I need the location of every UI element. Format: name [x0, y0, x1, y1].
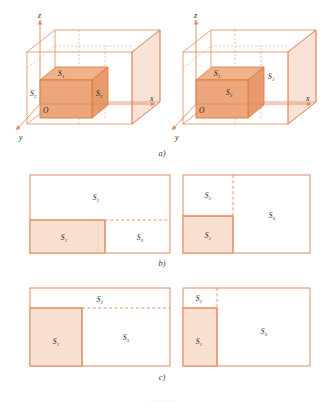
axis-label-z: z — [37, 11, 42, 20]
axis-label-y: y — [18, 133, 23, 142]
cell-label-s3: S₃ — [261, 327, 268, 336]
row-b-label: b) — [142, 258, 182, 268]
rect-diagram-b-right: S₂ S₁ S₃ — [183, 175, 310, 253]
row-c-svg: S₂ S₁ S₃ S₂ S₁ S₃ — [0, 282, 325, 374]
cell-label-s3: S₃ — [123, 333, 130, 342]
axis-label-y: y — [174, 133, 179, 142]
region-label-s2: S₂ — [268, 72, 275, 81]
cell-label-s1: S₁ — [205, 231, 212, 240]
region-label-s1: S₁ — [58, 69, 65, 78]
axis-label-x: x — [149, 94, 154, 103]
right-3d-box: z x y O S₁ S₂ S₃ — [172, 11, 316, 142]
cell-label-s1: S₁ — [196, 337, 203, 346]
outer-right-face — [132, 30, 160, 124]
cell-label-s2: S₂ — [196, 294, 203, 303]
rect-diagram-c-right: S₂ S₁ S₃ — [183, 288, 310, 366]
region-label-s3: S₃ — [226, 88, 233, 97]
region-label-s1: S₁ — [214, 69, 221, 78]
region-label-s3: S₃ — [96, 89, 103, 98]
row-a-label: a) — [142, 148, 182, 158]
rect-diagram-c-left: S₂ S₁ S₃ — [30, 288, 170, 366]
row-b-svg: S₂ S₁ S₃ S₂ S₁ S₃ — [0, 170, 325, 265]
cell-label-s2: S₂ — [205, 191, 212, 200]
outer-right-face — [288, 30, 316, 124]
cell-label-s2: S₂ — [97, 295, 104, 304]
origin-label: O — [199, 106, 205, 115]
cell-label-s1: S₁ — [61, 233, 68, 242]
cell-label-s2: S₂ — [93, 193, 100, 202]
cell-label-s1: S₁ — [53, 337, 60, 346]
rect-diagram-b-left: S₂ S₁ S₃ — [30, 175, 170, 253]
figure-container: z x y O S₁ S₂ S₃ — [0, 0, 325, 408]
cell-label-s3: S₃ — [269, 211, 276, 220]
axis-label-z: z — [193, 11, 198, 20]
row-a-svg: z x y O S₁ S₂ S₃ — [0, 0, 325, 160]
axis-label-x: x — [305, 94, 310, 103]
region-label-s2: S₂ — [30, 89, 37, 98]
left-3d-box: z x y O S₁ S₂ S₃ — [16, 11, 160, 142]
cell-label-s3: S₃ — [137, 233, 144, 242]
cell-s1 — [30, 220, 105, 253]
row-c-label: c) — [142, 372, 182, 382]
origin-label: O — [43, 106, 49, 115]
figure-bottom-caption: ·········· — [0, 397, 325, 405]
